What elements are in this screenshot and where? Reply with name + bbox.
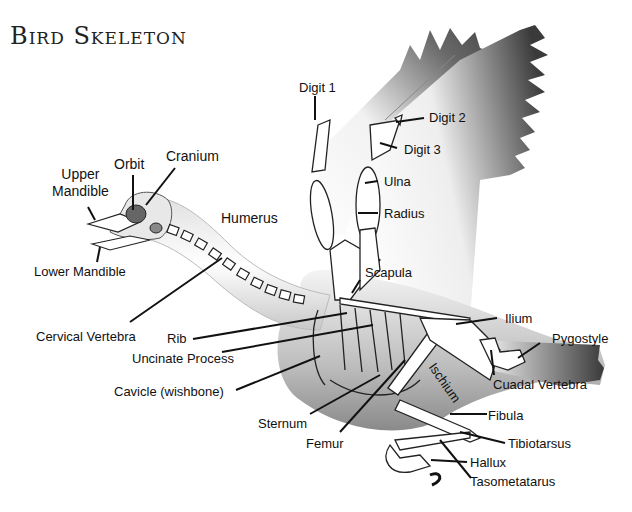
label-tibiotarsus: Tibiotarsus xyxy=(508,436,571,451)
label-radius: Radius xyxy=(384,206,424,221)
label-humerus: Humerus xyxy=(221,210,278,227)
label-cavicle: Cavicle (wishbone) xyxy=(114,384,224,399)
label-lower-mandible: Lower Mandible xyxy=(34,264,126,279)
label-upper-mandible: Upper Mandible xyxy=(52,166,109,200)
label-cuadal-vertebra: Cuadal Vertebra xyxy=(493,377,587,392)
label-hallux: Hallux xyxy=(470,455,506,470)
label-ulna: Ulna xyxy=(384,174,411,189)
label-uncinate-process: Uncinate Process xyxy=(132,351,234,366)
label-sternum: Sternum xyxy=(258,416,307,431)
label-femur: Femur xyxy=(306,436,344,451)
label-rib: Rib xyxy=(167,331,187,346)
label-tasometatarus: Tasometatarus xyxy=(470,474,555,489)
label-upper-mandible-line2: Mandible xyxy=(52,183,109,200)
label-cranium: Cranium xyxy=(166,148,219,165)
diagram-title: Bird Skeleton xyxy=(10,22,187,50)
label-orbit: Orbit xyxy=(114,156,144,173)
label-ilium: Ilium xyxy=(505,311,532,326)
label-scapula: Scapula xyxy=(365,265,412,280)
label-digit-2: Digit 2 xyxy=(429,110,466,125)
label-digit-1: Digit 1 xyxy=(299,80,336,95)
label-pygostyle: Pygostyle xyxy=(552,331,608,346)
label-cervical-vertebra: Cervical Vertebra xyxy=(36,329,136,344)
label-fibula: Fibula xyxy=(488,408,523,423)
label-upper-mandible-line1: Upper xyxy=(52,166,109,183)
label-digit-3: Digit 3 xyxy=(404,142,441,157)
bird-skeleton-diagram: Bird Skeleton Upper Mandible Orbit Crani… xyxy=(0,0,632,512)
